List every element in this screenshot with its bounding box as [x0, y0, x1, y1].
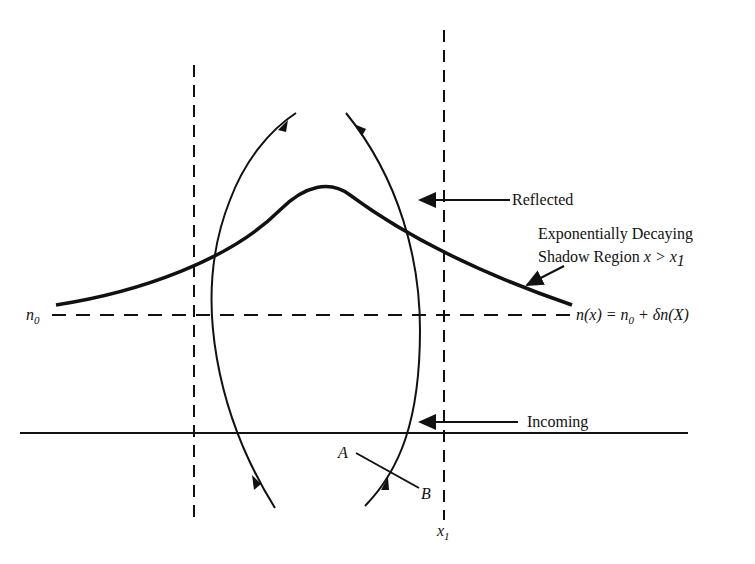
refractive-index-profile-curve — [56, 187, 572, 305]
right-ray-arrow-lower-icon — [381, 477, 389, 490]
shadow-region-text: Shadow Region — [538, 248, 644, 266]
shadow-region-label-line1: Exponentially Decaying — [538, 225, 693, 243]
shadow-region-pointer-line — [527, 266, 564, 285]
incoming-label: Incoming — [527, 413, 588, 431]
right-ray-path — [346, 113, 420, 506]
right-ray-arrow-up-icon — [354, 124, 366, 136]
shadow-region-math-sub: 1 — [677, 252, 685, 269]
ray-reflection-diagram: Reflected Exponentially Decaying Shadow … — [0, 0, 755, 564]
point-b-label: B — [421, 485, 431, 502]
point-a-label: A — [337, 444, 348, 461]
n0-left-label: n0 — [26, 306, 40, 326]
x1-label: x1 — [436, 522, 450, 542]
profile-equation-label: n(x) = n0 + δn(X) — [576, 306, 689, 326]
reflected-label: Reflected — [512, 191, 573, 208]
shadow-region-label-line2: Shadow Region x > x1 — [538, 248, 685, 269]
shadow-region-math: x > x — [643, 248, 677, 265]
left-ray-path — [212, 113, 296, 508]
